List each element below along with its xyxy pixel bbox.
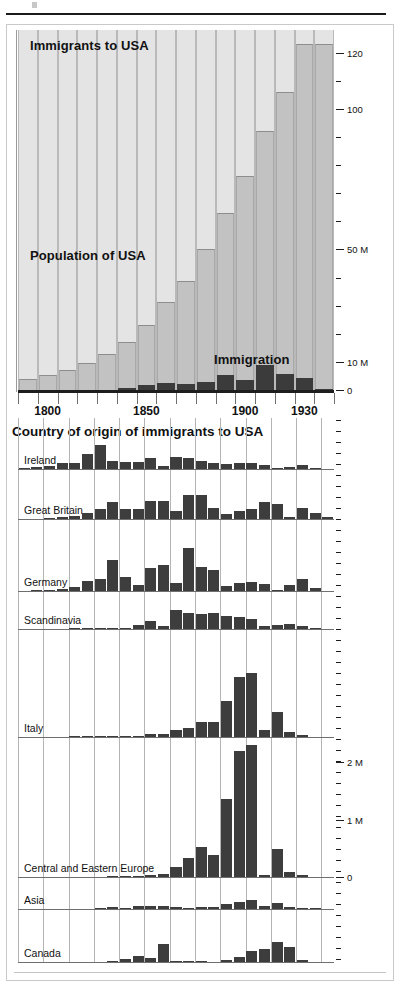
country-bar xyxy=(170,511,181,519)
country-bar xyxy=(133,876,144,878)
bottom-axis-tick xyxy=(336,728,341,729)
country-row-label: Ireland xyxy=(22,454,58,466)
top-decade-band xyxy=(97,30,117,390)
country-bar xyxy=(234,463,245,470)
country-bar xyxy=(246,582,257,591)
top-axis-tick xyxy=(336,278,341,279)
bottom-axis-tick xyxy=(336,739,341,740)
country-bar xyxy=(208,907,219,909)
country-bar xyxy=(221,514,232,519)
country-bar xyxy=(120,876,131,878)
country-bar xyxy=(183,728,194,737)
country-bar xyxy=(208,508,219,519)
top-axis-tick xyxy=(336,362,344,363)
country-row-label: Italy xyxy=(22,722,45,734)
country-bar xyxy=(196,614,207,629)
country-bar xyxy=(95,579,106,591)
population-bar xyxy=(197,249,215,390)
country-bar xyxy=(120,509,131,519)
country-bar xyxy=(69,516,80,519)
label-population-of-usa: Population of USA xyxy=(30,248,146,263)
country-bar xyxy=(95,509,106,519)
top-x-tick-label: 1850 xyxy=(133,404,160,418)
country-bar xyxy=(234,751,245,878)
bottom-axis-tick xyxy=(336,442,341,443)
country-bar xyxy=(297,465,308,470)
country-bar xyxy=(272,942,283,962)
bottom-axis-tick xyxy=(336,893,341,894)
country-bar xyxy=(170,907,181,909)
country-bar xyxy=(120,462,131,470)
bottom-axis-tick xyxy=(336,673,341,674)
country-bar xyxy=(284,517,295,519)
bottom-axis-tick xyxy=(336,750,341,751)
country-bar xyxy=(310,628,321,630)
country-bar xyxy=(196,907,207,909)
top-axis-tick-label: 120 xyxy=(347,47,363,58)
country-bar xyxy=(107,560,118,592)
bottom-axis-tick xyxy=(336,453,341,454)
top-decade-band xyxy=(58,30,78,390)
bottom-axis-tick xyxy=(336,563,341,564)
population-bar xyxy=(118,342,136,390)
country-bar xyxy=(95,736,106,738)
country-bar xyxy=(158,501,169,519)
country-bar xyxy=(57,517,68,519)
bottom-axis-tick xyxy=(336,486,341,487)
top-x-tick xyxy=(176,393,177,404)
country-bar xyxy=(221,701,232,737)
immigration-bar xyxy=(276,374,294,390)
country-bar xyxy=(259,584,270,591)
population-bar xyxy=(315,44,333,391)
country-bar xyxy=(297,508,308,519)
country-bar xyxy=(221,616,232,629)
bottom-axis-tick xyxy=(336,871,341,872)
top-axis-tick-label: 50 M xyxy=(347,244,368,255)
country-bar xyxy=(145,906,156,909)
top-x-tick xyxy=(275,393,276,404)
country-bar xyxy=(272,504,283,519)
population-bar xyxy=(98,354,116,390)
top-x-tick-label: 1900 xyxy=(232,404,259,418)
country-bar xyxy=(234,957,245,962)
country-bar xyxy=(107,876,118,878)
country-bar xyxy=(234,617,245,629)
country-bar xyxy=(234,902,245,909)
top-x-tick-label: 1930 xyxy=(291,404,318,418)
top-decade-band xyxy=(18,30,38,390)
country-bar xyxy=(145,734,156,737)
population-bar xyxy=(19,379,37,390)
country-bar xyxy=(246,509,257,519)
bottom-axis-tick xyxy=(336,530,341,531)
country-bar xyxy=(297,875,308,877)
country-bar xyxy=(170,961,181,963)
bottom-axis-tick xyxy=(336,827,341,828)
bottom-axis-tick xyxy=(336,662,341,663)
country-row xyxy=(18,630,334,738)
top-x-tick xyxy=(295,393,296,404)
country-bar xyxy=(145,958,156,962)
country-bar xyxy=(297,626,308,629)
bottom-axis-major-tick xyxy=(336,820,344,821)
country-bar xyxy=(95,908,106,910)
top-x-tick xyxy=(58,393,59,404)
top-x-tick xyxy=(117,393,118,404)
population-immigration-chart: Immigrants to USA Population of USA Immi… xyxy=(18,30,334,390)
country-bar xyxy=(170,583,181,591)
top-x-axis-ticks: 1800185019001930 xyxy=(18,393,334,419)
country-bar xyxy=(196,847,207,877)
bottom-axis-tick xyxy=(336,805,341,806)
country-bar xyxy=(31,590,42,592)
bottom-axis-tick xyxy=(336,519,341,520)
top-x-tick xyxy=(77,393,78,404)
top-axis-tick xyxy=(336,109,344,110)
header-rule xyxy=(6,13,386,15)
bottom-axis-tick xyxy=(336,816,341,817)
country-bar xyxy=(170,457,181,470)
country-bar xyxy=(259,465,270,470)
country-bar xyxy=(208,570,219,591)
country-bar xyxy=(234,511,245,519)
top-x-tick-label: 1800 xyxy=(34,404,61,418)
country-bar xyxy=(284,585,295,591)
country-bar xyxy=(82,581,93,591)
